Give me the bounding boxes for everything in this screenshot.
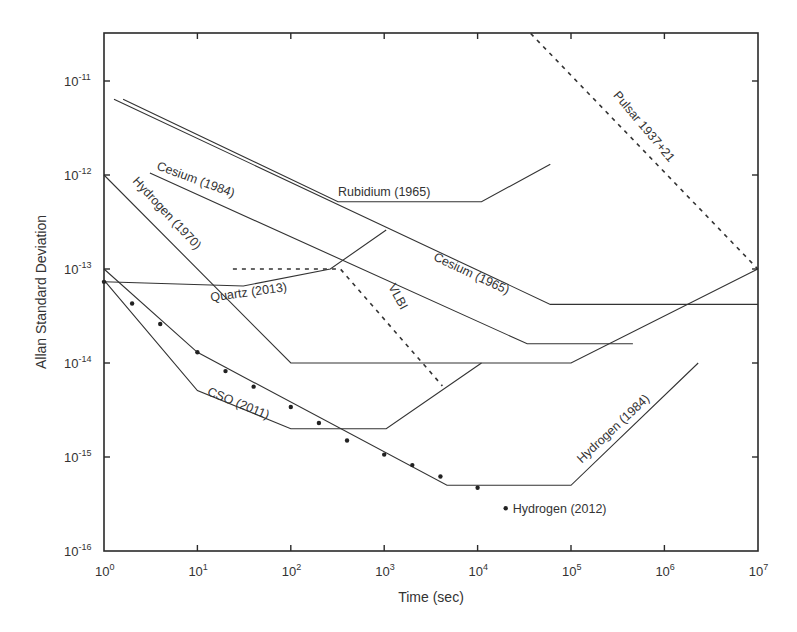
hydrogen-2012-point (158, 322, 162, 326)
x-tick-label: 104 (469, 562, 488, 579)
y-axis-title: Allan Standard Deviation (33, 215, 49, 369)
x-axis-title: Time (sec) (398, 589, 464, 605)
x-tick-label: 100 (95, 562, 114, 579)
hydrogen-2012-point (130, 301, 134, 305)
x-tick-label: 105 (562, 562, 581, 579)
hydrogen-2012-points: Hydrogen (2012) (102, 280, 607, 517)
x-tick-label: 102 (282, 562, 301, 579)
series-label-hydrogen-1984: Hydrogen (1984) (574, 392, 652, 466)
x-tick-label: 101 (188, 562, 207, 579)
hydrogen-2012-point (251, 384, 255, 388)
hydrogen-2012-point (438, 474, 442, 478)
series-label-cso-2011: CSO (2011) (205, 385, 271, 423)
axis-ticks: 10010110210310410510610710-1610-1510-141… (64, 33, 768, 579)
hydrogen-2012-point (345, 438, 349, 442)
hydrogen-2012-point (475, 486, 479, 490)
y-tick-label: 10-13 (64, 260, 91, 277)
allan-deviation-chart: Hydrogen (2012) Cesium (1965)Rubidium (1… (0, 0, 797, 632)
legend-marker-dot (504, 506, 508, 510)
series-line-pulsar-1937-21 (531, 34, 758, 270)
series-line-quartz-2013 (104, 230, 386, 286)
hydrogen-2012-point (289, 405, 293, 409)
series-line-rubidium-1965 (123, 99, 550, 202)
y-tick-label: 10-16 (64, 542, 91, 559)
series-label-quartz-2013: Quartz (2013) (210, 280, 288, 305)
legend-label-hydrogen-2012: Hydrogen (2012) (513, 502, 607, 516)
y-tick-label: 10-15 (64, 448, 91, 465)
series-label-cesium-1965: Cesium (1965) (431, 250, 511, 297)
series-label-vlbi: VLBI (385, 281, 410, 312)
series-layer (104, 34, 758, 486)
y-tick-label: 10-11 (64, 72, 91, 89)
series-line-hydrogen-1970 (104, 175, 758, 363)
y-tick-label: 10-12 (64, 166, 91, 183)
hydrogen-2012-point (382, 452, 386, 456)
hydrogen-2012-point (195, 350, 199, 354)
y-tick-label: 10-14 (64, 354, 91, 371)
series-label-rubidium-1965: Rubidium (1965) (338, 185, 430, 199)
hydrogen-2012-point (223, 369, 227, 373)
x-tick-label: 103 (375, 562, 394, 579)
x-tick-label: 106 (655, 562, 674, 579)
hydrogen-2012-point (317, 421, 321, 425)
hydrogen-2012-point (410, 463, 414, 467)
x-tick-label: 107 (749, 562, 768, 579)
plot-frame (104, 33, 758, 551)
